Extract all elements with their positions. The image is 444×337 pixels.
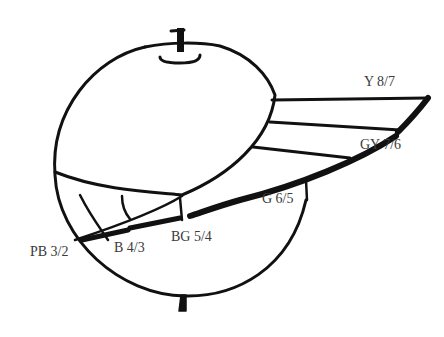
sphere-cap [55,43,275,195]
label-g: G 6/5 [262,192,294,206]
g-tick [306,180,307,200]
chroma-band-upper [398,98,428,132]
label-bg: BG 5/4 [171,230,212,244]
wedge-mid-edge-1 [270,122,400,130]
color-sphere-diagram: Y 8/7 GY 7/6 G 6/5 BG 5/4 B 4/3 PB 3/2 [0,0,444,337]
chroma-band-bg [130,218,180,228]
sphere-outline [55,47,306,296]
label-b: B 4/3 [114,241,145,255]
wedge-mid-edge-2 [253,147,350,158]
wedge-inner-line-2 [122,196,130,219]
sphere-drawing [0,0,444,337]
wedge-top-edge [272,98,428,100]
label-pb: PB 3/2 [30,245,69,259]
label-gy: GY 7/6 [360,138,401,152]
label-y: Y 8/7 [364,75,395,89]
